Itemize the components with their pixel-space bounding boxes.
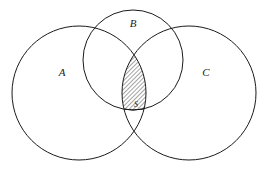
- label-set-c: C: [202, 66, 210, 78]
- label-set-a: A: [58, 66, 66, 78]
- label-set-b: B: [130, 17, 137, 29]
- venn-diagram-container: A B C S: [0, 0, 267, 179]
- label-region-s: S: [134, 100, 138, 109]
- venn-diagram-canvas: A B C S: [0, 0, 267, 179]
